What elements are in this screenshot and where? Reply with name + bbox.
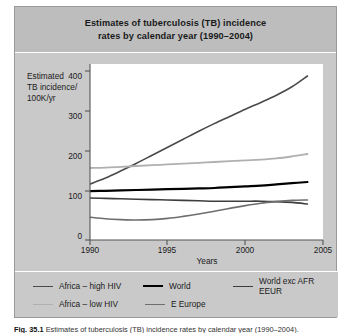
legend-label-world: World — [169, 281, 191, 291]
figure-container: Estimates of tuberculosis (TB) incidence… — [14, 6, 337, 318]
title-line-2: rates by calendar year (1990–2004) — [98, 31, 253, 41]
legend-item-e-europe[interactable]: E Europe — [145, 295, 237, 313]
y-tick-label-300: 300 — [48, 111, 82, 121]
page-title: Estimates of tuberculosis (TB) incidence… — [85, 17, 267, 42]
legend-row-2: Africa – low HIV E Europe — [15, 295, 338, 313]
title-line-1: Estimates of tuberculosis (TB) incidence — [85, 18, 267, 28]
x-tick-label-1995: 1995 — [147, 245, 187, 255]
y-axis-title-line-3: 100K/yr — [27, 93, 56, 103]
legend-label-africa-low-hiv: Africa – low HIV — [59, 299, 118, 309]
legend-swatch-e-europe — [145, 304, 165, 305]
figure-caption: Fig. 35.1 Estimates of tuberculosis (TB)… — [14, 325, 344, 333]
figure-title-bar: Estimates of tuberculosis (TB) incidence… — [15, 7, 336, 53]
legend-item-africa-low-hiv[interactable]: Africa – low HIV — [33, 295, 145, 313]
legend-swatch-africa-high-hiv — [33, 286, 53, 287]
axis-lines — [83, 64, 324, 249]
x-axis-title: Years — [172, 256, 242, 266]
y-tick-label-100: 100 — [48, 191, 82, 201]
x-tick-label-2005: 2005 — [303, 245, 343, 255]
y-tick-label-400: 400 — [48, 71, 82, 81]
legend-swatch-world-exc-afr-eeur — [233, 286, 253, 287]
figure-caption-text: Estimates of tuberculosis (TB) incidence… — [46, 325, 299, 333]
y-tick-label-0: 0 — [48, 231, 82, 241]
legend-item-world-exc-afr-eeur[interactable]: World exc AFR EEUR — [233, 277, 338, 295]
legend-swatch-world — [143, 285, 163, 287]
chart-legend: Africa – high HIV World World exc AFR EE… — [15, 271, 338, 317]
figure-body: Estimated TB incidence/ 100K/yr 400 300 … — [15, 53, 336, 317]
y-tick-label-200: 200 — [48, 151, 82, 161]
x-tick-label-1990: 1990 — [70, 245, 110, 255]
chart-area: Estimated TB incidence/ 100K/yr 400 300 … — [15, 53, 338, 267]
figure-caption-label: Fig. 35.1 — [14, 325, 44, 333]
legend-item-world[interactable]: World — [143, 277, 233, 295]
x-tick-label-2000: 2000 — [225, 245, 265, 255]
legend-row-1: Africa – high HIV World World exc AFR EE… — [15, 277, 338, 295]
y-axis-title-line-2: TB incidence/ — [27, 82, 77, 92]
legend-swatch-africa-low-hiv — [33, 304, 53, 305]
legend-label-world-exc-afr-eeur: World exc AFR EEUR — [259, 276, 338, 296]
legend-item-africa-high-hiv[interactable]: Africa – high HIV — [33, 277, 143, 295]
legend-label-africa-high-hiv: Africa – high HIV — [59, 281, 121, 291]
legend-label-e-europe: E Europe — [171, 299, 206, 309]
